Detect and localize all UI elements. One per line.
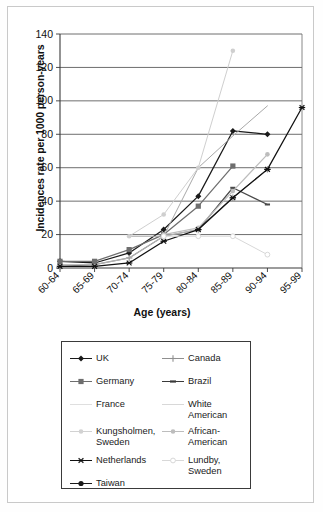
legend-item: Lundby, Sweden xyxy=(162,455,222,476)
legend-marker-icon xyxy=(162,376,184,387)
series-lundby-sweden xyxy=(161,234,270,257)
legend-marker-icon xyxy=(162,353,184,364)
legend-marker-icon xyxy=(70,426,92,437)
series-white-american xyxy=(129,106,267,236)
legend-item: White American xyxy=(162,399,227,420)
svg-text:80-84: 80-84 xyxy=(174,269,200,295)
chart-legend: UKCanadaGermanyBrazilFranceWhite America… xyxy=(61,341,251,489)
svg-text:95-99: 95-99 xyxy=(278,269,304,295)
svg-text:65-69: 65-69 xyxy=(70,269,96,295)
legend-marker-icon xyxy=(70,455,92,466)
svg-text:20: 20 xyxy=(41,228,53,240)
legend-label: African- American xyxy=(188,426,227,447)
x-axis-title: Age (years) xyxy=(14,306,310,318)
legend-label: White American xyxy=(188,399,227,420)
legend-marker-icon xyxy=(70,353,92,364)
svg-text:40: 40 xyxy=(41,195,53,207)
legend-label: Lundby, Sweden xyxy=(188,455,222,476)
legend-item: France xyxy=(70,399,125,410)
svg-text:80: 80 xyxy=(41,128,53,140)
legend-marker-icon xyxy=(70,478,92,489)
svg-text:60: 60 xyxy=(41,161,53,173)
svg-text:100: 100 xyxy=(35,94,53,106)
series-canada xyxy=(57,166,271,269)
legend-label: Taiwan xyxy=(96,478,125,489)
legend-item: UK xyxy=(70,353,109,364)
legend-item: Germany xyxy=(70,376,134,387)
svg-text:60-64: 60-64 xyxy=(36,269,62,295)
legend-label: Kungsholmen, Sweden xyxy=(96,426,155,447)
legend-item: Canada xyxy=(162,353,221,364)
legend-item: African- American xyxy=(162,426,227,447)
legend-marker-icon xyxy=(70,399,92,410)
svg-text:120: 120 xyxy=(35,61,53,73)
svg-text:70-74: 70-74 xyxy=(105,269,131,295)
legend-label: Germany xyxy=(96,376,134,387)
line-chart-figure: Incidences rate per 1000 person-years 02… xyxy=(0,0,323,512)
series-netherlands xyxy=(57,105,305,269)
series-germany xyxy=(57,163,235,263)
svg-text:85-89: 85-89 xyxy=(208,269,234,295)
figure-page: Incidences rate per 1000 person-years 02… xyxy=(0,0,323,512)
chart-canvas: 02040608010012014060-6465-6970-7475-7980… xyxy=(14,14,310,304)
chart-plot-area: Incidences rate per 1000 person-years 02… xyxy=(14,14,310,324)
legend-marker-icon xyxy=(162,455,184,466)
series-uk xyxy=(57,128,270,266)
legend-marker-icon xyxy=(162,426,184,437)
legend-item: Netherlands xyxy=(70,455,146,466)
legend-marker-icon xyxy=(162,399,184,410)
legend-label: France xyxy=(96,399,125,410)
legend-item: Kungsholmen, Sweden xyxy=(70,426,155,447)
svg-text:90-94: 90-94 xyxy=(243,269,269,295)
svg-text:140: 140 xyxy=(35,28,53,40)
svg-text:75-79: 75-79 xyxy=(139,269,165,295)
legend-label: Brazil xyxy=(188,376,211,387)
legend-item: Taiwan xyxy=(70,478,125,489)
legend-label: UK xyxy=(96,353,109,364)
legend-item: Brazil xyxy=(162,376,211,387)
legend-marker-icon xyxy=(70,376,92,387)
legend-label: Canada xyxy=(188,353,221,364)
legend-label: Netherlands xyxy=(96,455,146,466)
